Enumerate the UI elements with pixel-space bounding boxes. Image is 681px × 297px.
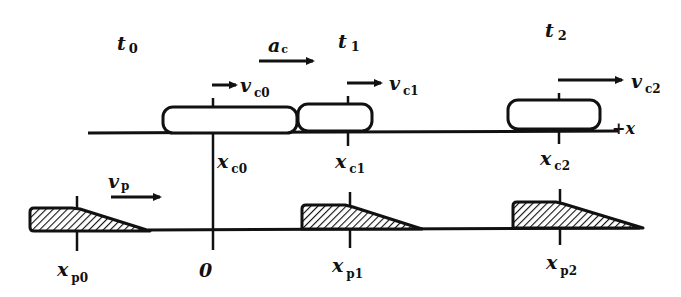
position-label-c0: xc0 <box>216 150 247 176</box>
pursuer-velocity-label: vp <box>108 170 129 193</box>
car-t1 <box>298 104 372 131</box>
position-label-p2: xp2 <box>545 251 577 278</box>
acceleration-label: ac <box>268 34 288 56</box>
position-label-c2: xc2 <box>539 147 570 173</box>
position-label-c1: xc1 <box>334 150 365 176</box>
car-t0 <box>163 107 297 133</box>
upper-axis-label: +x <box>612 119 635 138</box>
velocity-label-c0: vc0 <box>240 74 270 100</box>
position-label-p1: xp1 <box>331 254 363 281</box>
velocity-label-c1: vc1 <box>389 72 419 98</box>
pursuer-t1 <box>302 205 422 229</box>
velocity-label-c2: vc2 <box>631 70 661 96</box>
pursuer-t2 <box>513 202 643 228</box>
kinematics-diagram: t0 t1 t2 ac +x vc0 vc1 vc2 xc0 xc1 xc2 v… <box>0 0 681 297</box>
pursuer-t0 <box>30 208 150 231</box>
time-label-t1: t1 <box>338 30 360 54</box>
time-label-t2: t2 <box>545 19 567 43</box>
origin-label: 0 <box>199 259 212 281</box>
car-t2 <box>508 100 600 129</box>
time-label-t0: t0 <box>117 32 138 56</box>
position-label-p0: xp0 <box>56 258 88 285</box>
